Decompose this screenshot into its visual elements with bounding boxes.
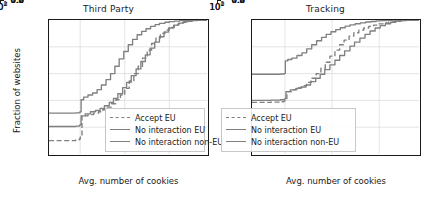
x-tick-label-2: 102 xyxy=(0,0,15,12)
panel-third-party: Third Party Fraction of websites 1.00.80… xyxy=(0,0,217,198)
legend-item-1[interactable]: No interaction EU xyxy=(226,124,350,136)
legend-item-label: No interaction non-EU xyxy=(251,138,339,147)
legend-item-label: No interaction EU xyxy=(135,126,205,135)
panel-title-tracking: Tracking xyxy=(217,4,434,14)
legend-item-label: No interaction non-EU xyxy=(135,138,223,147)
x-tick-label-2: 102 xyxy=(202,0,232,12)
legend-item-0[interactable]: Accept EU xyxy=(110,112,199,124)
legend-item-2[interactable]: No interaction non-EU xyxy=(226,136,350,148)
legend-item-0[interactable]: Accept EU xyxy=(226,112,350,124)
legend-item-1[interactable]: No interaction EU xyxy=(110,124,199,136)
legend-item-label: Accept EU xyxy=(251,114,292,123)
figure-cdf-cookies: Third Party Fraction of websites 1.00.80… xyxy=(0,0,434,198)
legend-tracking: Accept EUNo interaction EUNo interaction… xyxy=(221,108,356,152)
x-axis-label: Avg. number of cookies xyxy=(79,176,179,186)
legend-item-label: Accept EU xyxy=(135,114,176,123)
x-axis-label-right: Avg. number of cookies xyxy=(286,176,386,186)
legend-item-label: No interaction EU xyxy=(251,126,321,135)
panel-title-third-party: Third Party xyxy=(0,4,217,14)
panel-tracking: Tracking 1.00.80.60.40.20.0 100101102 Av… xyxy=(217,0,434,198)
y-axis-label: Fraction of websites xyxy=(12,48,22,133)
legend-item-2[interactable]: No interaction non-EU xyxy=(110,136,199,148)
legend-third-party: Accept EUNo interaction EUNo interaction… xyxy=(105,108,205,152)
